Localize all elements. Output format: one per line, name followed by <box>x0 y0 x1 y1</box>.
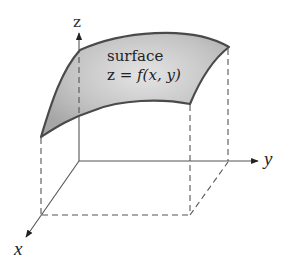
z-axis-label: z <box>73 13 81 31</box>
floor-right-edge <box>190 162 228 215</box>
x-axis-label: x <box>13 238 23 259</box>
x-axis <box>26 161 79 237</box>
surface-equation: z = f(x, y) <box>107 66 181 84</box>
axes <box>26 113 258 237</box>
equation-args: (x, y) <box>143 66 181 84</box>
surface-label: surface <box>107 47 163 65</box>
equation-prefix: z = <box>107 66 137 84</box>
surface-diagram: z y x surface z = f(x, y) <box>0 0 297 271</box>
y-axis-label: y <box>262 148 273 169</box>
